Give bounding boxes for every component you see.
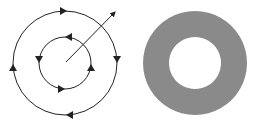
concentric-circles-diagram	[0, 0, 130, 125]
inner-arrow-top-icon	[65, 33, 72, 41]
outer-circle	[13, 11, 117, 115]
annulus-svg	[130, 0, 260, 125]
outer-arrow-bottom-icon	[66, 111, 73, 119]
outer-arrow-top-icon	[60, 7, 67, 15]
outer-arrow-left-icon	[9, 64, 17, 71]
circulation-diagram-svg	[0, 0, 130, 125]
annulus-diagram	[130, 0, 260, 125]
outer-arrow-right-icon	[113, 56, 121, 63]
radial-arrow	[66, 12, 115, 62]
inner-arrow-right-icon	[87, 64, 95, 71]
inner-arrow-left-icon	[35, 56, 43, 63]
inner-arrow-bottom-icon	[58, 85, 65, 93]
annulus-ring	[143, 11, 247, 115]
